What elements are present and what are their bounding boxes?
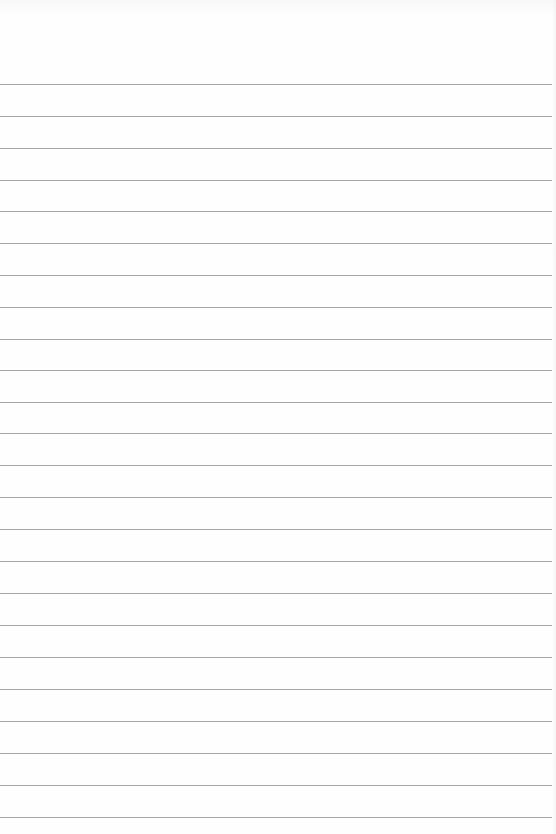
rule-line (0, 785, 552, 786)
rule-line (0, 339, 552, 340)
faint-bleed-through (0, 0, 556, 16)
rule-line (0, 721, 552, 722)
rule-line (0, 817, 552, 818)
rule-line (0, 593, 552, 594)
rule-line (0, 625, 552, 626)
rule-line (0, 689, 552, 690)
rule-line (0, 307, 552, 308)
lined-paper-page (0, 0, 556, 834)
rule-line (0, 753, 552, 754)
rule-line (0, 116, 552, 117)
rule-line (0, 465, 552, 466)
rule-line (0, 370, 552, 371)
rule-line (0, 402, 552, 403)
rule-line (0, 84, 552, 85)
rule-line (0, 243, 552, 244)
rule-line (0, 180, 552, 181)
rule-line (0, 657, 552, 658)
rule-line (0, 211, 552, 212)
rule-line (0, 497, 552, 498)
rule-line (0, 275, 552, 276)
rule-line (0, 433, 552, 434)
page-edge-shadow (552, 0, 556, 834)
rule-line (0, 529, 552, 530)
rule-line (0, 561, 552, 562)
rule-line (0, 148, 552, 149)
